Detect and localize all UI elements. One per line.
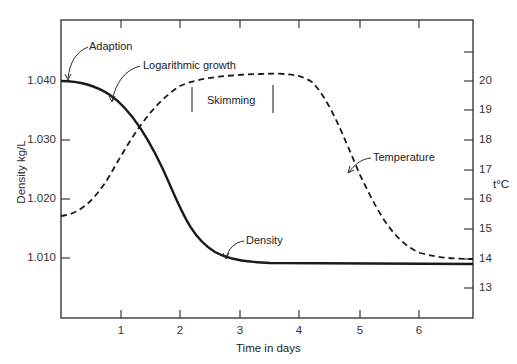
right-axis-ticks xyxy=(464,52,473,288)
annotation-density: Density xyxy=(246,234,283,246)
right-tick-14: 14 xyxy=(479,252,492,264)
annotation-temperature: Temperature xyxy=(373,151,435,163)
y-axis-label-right: t°C xyxy=(493,178,509,190)
density-arrow xyxy=(226,241,244,258)
annotation-skimming: Skimming xyxy=(207,94,255,106)
right-tick-17: 17 xyxy=(479,163,492,175)
right-tick-15: 15 xyxy=(479,222,492,234)
right-tick-20: 20 xyxy=(479,74,492,86)
left-tick-1010: 1.010 xyxy=(6,251,56,263)
x-axis-ticks xyxy=(121,310,419,318)
left-tick-1020: 1.020 xyxy=(6,192,56,204)
x-tick-4: 4 xyxy=(289,324,309,336)
x-tick-5: 5 xyxy=(350,324,370,336)
right-tick-16: 16 xyxy=(479,192,492,204)
x-tick-2: 2 xyxy=(170,324,190,336)
left-tick-1040: 1.040 xyxy=(6,74,56,86)
y-axis-label-left: Density kg/L xyxy=(15,132,27,212)
x-tick-1: 1 xyxy=(111,324,131,336)
top-ticks xyxy=(121,20,419,28)
right-tick-19: 19 xyxy=(479,103,492,115)
x-tick-3: 3 xyxy=(230,324,250,336)
annotation-adaption: Adaption xyxy=(89,40,132,52)
x-axis-label: Time in days xyxy=(236,342,301,354)
adaption-arrow xyxy=(68,47,88,78)
annotation-logarithmic-growth: Logarithmic growth xyxy=(143,59,236,71)
temperature-curve xyxy=(61,74,473,259)
temperature-arrow xyxy=(349,158,371,172)
log-growth-arrow xyxy=(112,66,140,101)
annotation-arrows xyxy=(65,47,371,259)
chart-canvas xyxy=(0,0,517,364)
right-tick-13: 13 xyxy=(479,281,492,293)
x-tick-6: 6 xyxy=(409,324,429,336)
left-axis-ticks xyxy=(61,81,70,258)
plot-frame xyxy=(61,20,473,318)
left-tick-1030: 1.030 xyxy=(6,133,56,145)
right-tick-18: 18 xyxy=(479,133,492,145)
